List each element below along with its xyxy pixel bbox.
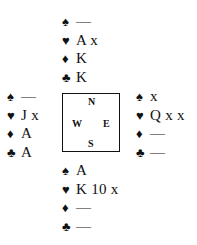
east-clubs-row: ♣— — [136, 143, 185, 162]
compass-box: N W E S — [62, 93, 120, 152]
club-icon: ♣ — [62, 218, 76, 237]
west-spades-row: ♠— — [7, 87, 39, 106]
east-hearts-cards: Q x x — [150, 106, 185, 125]
spade-icon: ♠ — [62, 13, 76, 32]
north-diamonds-cards: K — [76, 49, 87, 68]
east-spades-row: ♠x — [136, 87, 185, 106]
diamond-icon: ♦ — [136, 125, 150, 144]
compass-east-label: E — [103, 119, 110, 129]
club-icon: ♣ — [62, 69, 76, 88]
west-hearts-row: ♥J x — [7, 106, 39, 125]
north-clubs-cards: K — [76, 68, 87, 87]
east-hearts-row: ♥Q x x — [136, 106, 185, 125]
south-hearts-row: ♥K 10 x — [62, 180, 119, 199]
south-diamonds-row: ♦— — [62, 198, 119, 217]
spade-icon: ♠ — [7, 88, 21, 107]
west-diamonds-cards: A — [21, 124, 32, 143]
west-clubs-row: ♣A — [7, 143, 39, 162]
club-icon: ♣ — [7, 144, 21, 163]
west-spades-cards: — — [21, 87, 36, 106]
east-clubs-cards: — — [150, 143, 165, 162]
south-clubs-cards: — — [76, 217, 91, 236]
compass-south-label: S — [88, 139, 94, 149]
north-hand: ♠— ♥A x ♦K ♣K — [62, 12, 98, 86]
east-diamonds-row: ♦— — [136, 124, 185, 143]
south-hearts-cards: K 10 x — [76, 180, 119, 199]
west-diamonds-row: ♦A — [7, 124, 39, 143]
north-spades-row: ♠— — [62, 12, 98, 31]
south-spades-row: ♠A — [62, 161, 119, 180]
heart-icon: ♥ — [7, 107, 21, 126]
east-hand: ♠x ♥Q x x ♦— ♣— — [136, 87, 185, 161]
east-diamonds-cards: — — [150, 124, 165, 143]
club-icon: ♣ — [136, 144, 150, 163]
south-spades-cards: A — [76, 161, 87, 180]
south-hand: ♠A ♥K 10 x ♦— ♣— — [62, 161, 119, 235]
diamond-icon: ♦ — [62, 199, 76, 218]
north-diamonds-row: ♦K — [62, 49, 98, 68]
west-clubs-cards: A — [21, 143, 32, 162]
heart-icon: ♥ — [136, 107, 150, 126]
south-clubs-row: ♣— — [62, 217, 119, 236]
south-diamonds-cards: — — [76, 198, 91, 217]
north-hearts-cards: A x — [76, 31, 98, 50]
heart-icon: ♥ — [62, 32, 76, 51]
diamond-icon: ♦ — [62, 50, 76, 69]
spade-icon: ♠ — [136, 88, 150, 107]
north-spades-cards: — — [76, 12, 91, 31]
compass-north-label: N — [88, 97, 95, 107]
compass-west-label: W — [72, 119, 82, 129]
north-clubs-row: ♣K — [62, 68, 98, 87]
west-hearts-cards: J x — [21, 106, 39, 125]
diamond-icon: ♦ — [7, 125, 21, 144]
heart-icon: ♥ — [62, 181, 76, 200]
east-spades-cards: x — [150, 87, 158, 106]
spade-icon: ♠ — [62, 162, 76, 181]
west-hand: ♠— ♥J x ♦A ♣A — [7, 87, 39, 161]
north-hearts-row: ♥A x — [62, 31, 98, 50]
